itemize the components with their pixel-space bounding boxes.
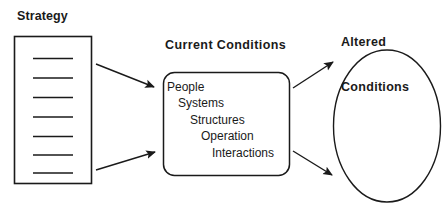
current-conditions-item: People: [167, 79, 291, 95]
arrow-current-to-altered-lower: [293, 151, 332, 175]
strategy-label: Strategy: [17, 9, 68, 24]
current-conditions-item-list: People Systems Structures Operation Inte…: [167, 79, 291, 161]
altered-conditions-label: Altered Conditions: [341, 4, 409, 126]
current-conditions-item: Operation: [167, 128, 291, 144]
current-conditions-item: Structures: [167, 112, 291, 128]
current-conditions-item: Interactions: [167, 145, 291, 161]
arrow-strategy-to-current-upper: [96, 64, 154, 87]
current-conditions-item: Systems: [167, 95, 291, 111]
arrow-current-to-altered-upper: [293, 62, 333, 88]
altered-conditions-label-line-2: Conditions: [341, 80, 409, 95]
current-conditions-label: Current Conditions: [165, 38, 286, 53]
process-flow-diagram: Strategy Current Conditions Altered Cond…: [0, 0, 443, 217]
altered-conditions-label-line-1: Altered: [341, 35, 409, 50]
arrow-strategy-to-current-lower: [96, 152, 155, 170]
